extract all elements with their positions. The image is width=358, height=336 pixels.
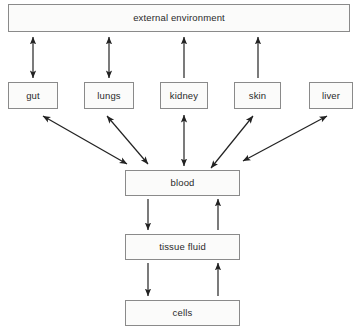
arrow-lungs-blood [107,116,148,164]
exchange-diagram: external environment gut lungs kidney sk… [0,0,358,336]
node-external-environment: external environment [8,4,350,32]
node-gut: gut [8,82,58,109]
node-kidney: kidney [160,82,208,109]
node-blood: blood [125,170,240,196]
arrow-skin-blood [211,116,253,168]
node-blood-label: blood [171,178,195,188]
arrow-gut-blood [43,116,127,164]
node-skin-label: skin [249,91,267,101]
node-cells: cells [125,300,240,326]
node-kidney-label: kidney [170,91,198,101]
arrow-layer [0,0,358,336]
node-skin: skin [234,82,281,109]
node-liver-label: liver [322,91,340,101]
node-tissue-fluid: tissue fluid [125,234,240,260]
node-liver: liver [309,82,353,109]
node-external-environment-label: external environment [133,13,225,23]
node-gut-label: gut [26,91,40,101]
arrow-liver-blood [243,116,327,161]
node-tissue-fluid-label: tissue fluid [159,242,206,252]
node-cells-label: cells [173,308,193,318]
node-lungs-label: lungs [97,91,120,101]
node-lungs: lungs [84,82,134,109]
